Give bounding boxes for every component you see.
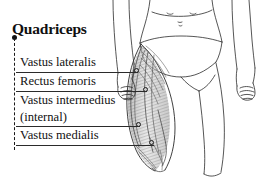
label-vastus-intermedius-internal: (internal) [18, 108, 67, 127]
label-vastus-lateralis-text: Vastus lateralis [18, 56, 96, 69]
page-title: Quadriceps [12, 20, 87, 38]
endpoint-vastus-lateralis [134, 68, 139, 73]
endpoint-rectus-femoris [143, 87, 148, 92]
label-rectus-femoris: Rectus femoris [18, 72, 96, 91]
endpoint-vastus-intermedius [136, 122, 141, 127]
callout-layer: Quadriceps Vastus lateralis Rectus femor… [0, 0, 265, 182]
label-vastus-intermedius-text: Vastus intermedius [18, 94, 116, 107]
label-vastus-medialis: Vastus medialis [18, 126, 99, 145]
label-rectus-femoris-text: Rectus femoris [18, 75, 96, 88]
label-vastus-medialis-text: Vastus medialis [18, 129, 99, 142]
quadriceps-diagram: Quadriceps Vastus lateralis Rectus femor… [0, 0, 265, 182]
label-vastus-intermedius-internal-text: (internal) [18, 111, 67, 124]
leader-line-vastus-medialis [16, 145, 154, 146]
endpoint-vastus-medialis [149, 140, 154, 145]
quadriceps-group-bracket [14, 38, 15, 150]
label-vastus-lateralis: Vastus lateralis [18, 53, 96, 72]
